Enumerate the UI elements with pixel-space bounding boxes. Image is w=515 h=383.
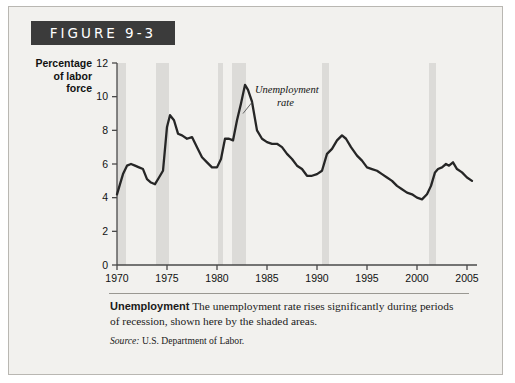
x-axis-tick-label: 2000 <box>405 272 429 284</box>
y-axis-title-line: of labor <box>54 70 93 82</box>
y-axis-tick-label: 12 <box>96 57 108 69</box>
y-axis-title-line: Percentage <box>35 57 92 69</box>
source-line: Source: U.S. Department of Labor. <box>110 335 462 346</box>
caption-block: Unemployment The unemployment rate rises… <box>110 299 462 346</box>
chart-plot-area: 024681012 197019751980198519901995200020… <box>9 51 504 287</box>
y-axis-tick-label: 4 <box>102 191 108 203</box>
x-axis-tick-label: 1980 <box>205 272 229 284</box>
figure-number-banner: FIGURE 9-3 <box>31 21 175 45</box>
y-axis-tick-label: 8 <box>102 124 108 136</box>
caption-divider <box>109 293 469 294</box>
recession-band <box>117 63 126 265</box>
annotation-label: rate <box>277 97 294 108</box>
figure-caption: Unemployment The unemployment rate rises… <box>110 299 462 328</box>
data-series-group <box>117 85 472 199</box>
y-axis-tick-label: 6 <box>102 158 108 170</box>
y-axis-title-line: force <box>66 82 92 94</box>
y-axis-tick-label: 2 <box>102 225 108 237</box>
annotation-label: Unemployment <box>255 84 320 95</box>
x-axis-tick-label: 1975 <box>155 272 179 284</box>
x-axis-tick-label: 1995 <box>355 272 379 284</box>
y-axis-tick-label: 0 <box>102 259 108 271</box>
figure-card: FIGURE 9-3 024681012 1970197519801985199… <box>8 6 503 375</box>
x-axis-tick-label: 1990 <box>305 272 329 284</box>
recession-band <box>429 63 436 265</box>
x-axis-tick-label: 1985 <box>255 272 279 284</box>
caption-title: Unemployment <box>110 300 189 312</box>
x-axis-tick-label: 2005 <box>455 272 479 284</box>
unemployment-line-chart: 024681012 197019751980198519901995200020… <box>9 51 504 287</box>
source-text: U.S. Department of Labor. <box>142 335 244 346</box>
x-axis-title: Year <box>456 286 478 287</box>
source-prefix: Source: <box>110 335 139 346</box>
x-axis-tick-group: 19701975198019851990199520002005 <box>105 265 479 284</box>
y-axis-tick-group: 024681012 <box>96 57 117 271</box>
unemployment-rate-line <box>117 85 472 199</box>
y-axis-tick-label: 10 <box>96 90 108 102</box>
chart-annotation-group: Unemploymentrate <box>243 84 320 113</box>
x-axis-tick-label: 1970 <box>105 272 129 284</box>
